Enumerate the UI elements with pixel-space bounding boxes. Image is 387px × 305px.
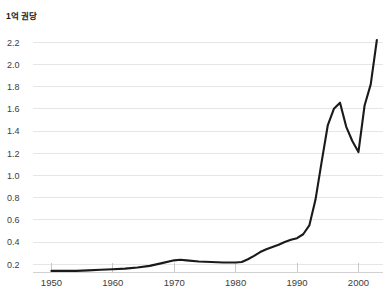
y-tick-label: 1.2	[7, 149, 20, 159]
y-tick-label: 0.8	[7, 193, 20, 203]
y-tick-label: 0.6	[7, 215, 20, 225]
line-chart-plot: 0.20.40.60.81.01.21.41.61.82.02.2 195019…	[0, 0, 387, 305]
series-line	[51, 40, 376, 271]
y-tick-label: 0.2	[7, 260, 20, 270]
y-tick-label: 1.0	[7, 171, 20, 181]
x-axis-tick-labels: 195019601970198019902000	[41, 277, 369, 288]
y-axis-tick-labels: 0.20.40.60.81.01.21.41.61.82.02.2	[7, 38, 20, 270]
y-tick-label: 1.8	[7, 82, 20, 92]
y-tick-label: 2.0	[7, 60, 20, 70]
y-tick-label: 1.4	[7, 126, 20, 136]
x-tick-label: 2000	[348, 277, 369, 288]
y-tick-label: 1.6	[7, 104, 20, 114]
x-tick-label: 1980	[225, 277, 246, 288]
x-tick-label: 1990	[286, 277, 307, 288]
gridlines	[33, 42, 383, 264]
y-tick-label: 2.2	[7, 38, 20, 48]
data-series	[51, 40, 376, 271]
chart-container: 1억 권당 0.20.40.60.81.01.21.41.61.82.02.2 …	[0, 0, 387, 305]
x-tick-label: 1960	[102, 277, 123, 288]
y-tick-label: 0.4	[7, 237, 20, 247]
x-tick-label: 1950	[41, 277, 62, 288]
x-tick-label: 1970	[164, 277, 185, 288]
